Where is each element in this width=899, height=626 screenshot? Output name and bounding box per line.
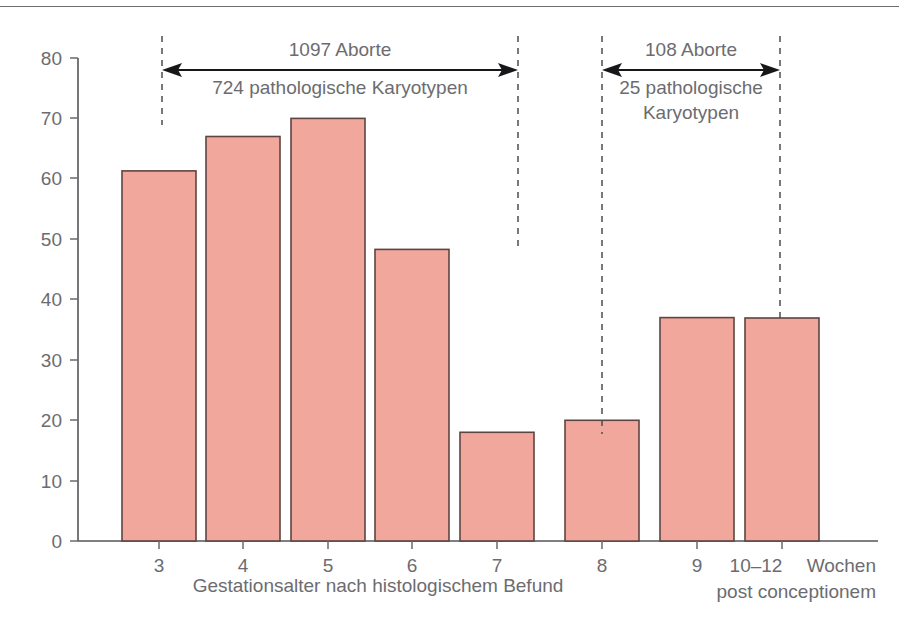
y-tick-label-20: 20 <box>41 410 62 431</box>
bar-8[interactable] <box>565 420 639 541</box>
x-caption-post-conceptionem: post conceptionem <box>717 581 877 602</box>
bar-7[interactable] <box>460 432 534 541</box>
y-axis-ticks <box>70 58 78 541</box>
y-tick-label-40: 40 <box>41 289 62 310</box>
y-tick-label-10: 10 <box>41 471 62 492</box>
x-tick-label-6: 6 <box>407 555 418 576</box>
annotation-left-span: 1097 Aborte 724 pathologische Karyotypen <box>162 39 518 98</box>
y-tick-label-60: 60 <box>41 168 62 189</box>
x-axis-title: Gestationsalter nach histologischem Befu… <box>193 575 564 596</box>
bars-group <box>122 118 819 541</box>
bar-5[interactable] <box>291 118 365 541</box>
bar-9[interactable] <box>660 318 734 541</box>
y-tick-label-30: 30 <box>41 350 62 371</box>
annotation-right-bottom-2: Karyotypen <box>643 102 739 123</box>
x-tick-label-3: 3 <box>154 555 165 576</box>
x-tick-label-4: 4 <box>238 555 249 576</box>
y-tick-label-80: 80 <box>41 48 62 69</box>
x-caption-wochen: Wochen <box>807 555 876 576</box>
bar-4[interactable] <box>206 137 280 542</box>
annotation-left-bottom: 724 pathologische Karyotypen <box>212 77 468 98</box>
x-tick-label-9: 9 <box>692 555 703 576</box>
x-tick-label-7: 7 <box>492 555 503 576</box>
bar-3[interactable] <box>122 171 196 541</box>
annotation-right-bottom-1: 25 pathologische <box>619 77 763 98</box>
bar-6[interactable] <box>375 249 449 541</box>
x-tick-label-10-12: 10–12 <box>730 555 783 576</box>
annotation-left-top: 1097 Aborte <box>289 39 391 60</box>
bar-10-12[interactable] <box>745 318 819 541</box>
bar-chart: 80 70 60 50 40 30 20 10 0 <box>0 0 899 626</box>
x-axis-ticks <box>159 541 782 549</box>
annotation-right-top: 108 Aborte <box>645 39 737 60</box>
y-tick-label-50: 50 <box>41 229 62 250</box>
figure-container: 80 70 60 50 40 30 20 10 0 <box>0 0 899 626</box>
annotation-right-span: 108 Aborte 25 pathologische Karyotypen <box>602 39 780 123</box>
x-tick-label-8: 8 <box>597 555 608 576</box>
y-tick-label-70: 70 <box>41 108 62 129</box>
x-tick-label-5: 5 <box>323 555 334 576</box>
y-tick-label-0: 0 <box>51 531 62 552</box>
